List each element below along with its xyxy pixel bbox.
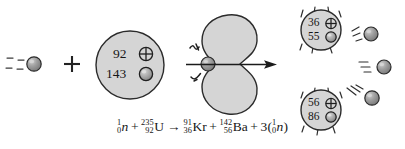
released-neutron-2 xyxy=(359,60,391,74)
plus-sign xyxy=(64,56,80,72)
krypton-neutron-count: 55 xyxy=(308,30,320,42)
uranium-235-nucleus xyxy=(96,31,164,99)
barium-nuclide-numbers: 14256 xyxy=(220,119,233,134)
released-neutron-3-motion-lines xyxy=(347,85,363,95)
released-neutron-1-sphere xyxy=(364,27,378,41)
released-neutron-nuclide-numbers: 10 xyxy=(272,119,276,134)
nuclear-equation: 10n+23592U→9136Kr+14256Ba+3(10n) xyxy=(0,119,405,136)
impact-squiggles xyxy=(190,44,201,81)
uranium-symbol: U xyxy=(154,119,164,134)
uranium-nuclide-numbers: 23592 xyxy=(141,119,154,134)
neutron-icon xyxy=(326,32,336,42)
neutron-icon xyxy=(139,67,152,80)
plus-3: + xyxy=(248,119,261,134)
plus-1: + xyxy=(128,119,141,134)
uranium-nucleus-body xyxy=(96,31,164,99)
krypton-91-fragment xyxy=(300,7,341,53)
incoming-neutron-group xyxy=(6,57,41,71)
released-neutron-3-sphere xyxy=(365,91,379,105)
deformed-compound-nucleus xyxy=(186,15,277,114)
incoming-neutron-sphere xyxy=(27,57,41,71)
released-neutron-1 xyxy=(352,27,378,41)
uranium-neutron-count: 143 xyxy=(106,66,126,82)
krypton-proton-count: 36 xyxy=(308,16,320,28)
proton-icon xyxy=(139,47,152,60)
released-neutron-3 xyxy=(347,85,379,105)
fission-diagram: 92 143 36 55 56 86 10n+23592U→9136Kr+142… xyxy=(0,0,405,149)
equation-arrow: → xyxy=(164,119,184,134)
incoming-neutron-motion-lines xyxy=(6,58,24,69)
released-neutron-1-motion-lines xyxy=(352,27,362,41)
proton-icon xyxy=(326,98,336,108)
neutron-nuclide-numbers: 10 xyxy=(117,119,121,134)
paren-close: ) xyxy=(283,119,288,134)
released-neutron-2-sphere xyxy=(377,60,391,74)
plus-2: + xyxy=(207,119,220,134)
uranium-proton-count: 92 xyxy=(113,46,127,62)
barium-symbol: Ba xyxy=(233,119,248,134)
proton-icon xyxy=(326,18,336,28)
krypton-symbol: Kr xyxy=(192,119,206,134)
barium-proton-count: 56 xyxy=(308,96,320,108)
released-neutron-2-motion-lines xyxy=(359,62,371,72)
krypton-nucleus-body xyxy=(301,10,341,50)
krypton-nuclide-numbers: 9136 xyxy=(184,119,193,134)
